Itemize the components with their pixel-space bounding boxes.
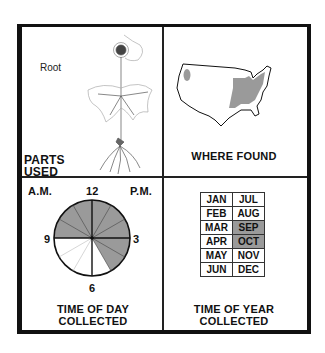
plant-illustration [78,30,162,176]
month-cell: MAR [201,221,233,235]
time-of-day-title: TIME OF DAY COLLECTED [24,303,162,327]
vertical-divider [162,27,164,330]
calendar-row: JAN JUL [201,193,265,207]
hour-9-label: 9 [44,233,50,245]
month-cell: NOV [233,249,265,263]
month-cell: JUN [201,263,233,277]
hour-3-label: 3 [133,233,139,245]
pm-label: P.M. [130,185,152,197]
month-cell: AUG [233,207,265,221]
usa-map [175,60,295,130]
calendar-row: MAR SEP [201,221,265,235]
time-of-year-title-line1: TIME OF YEAR [164,303,304,315]
time-of-day-title-line2: COLLECTED [24,315,162,327]
calendar-row: FEB AUG [201,207,265,221]
month-cell: JUL [233,193,265,207]
month-cell: DEC [233,263,265,277]
month-cell: MAY [201,249,233,263]
calendar-row: MAY NOV [201,249,265,263]
hour-6-label: 6 [89,282,95,294]
parts-used-title: PARTS USED [24,154,65,178]
time-of-year-title-line2: COLLECTED [164,315,304,327]
clock-dial [52,198,132,278]
month-cell-shaded: SEP [233,221,265,235]
part-label: Root [40,62,61,73]
parts-used-title-line2: USED [24,166,65,178]
calendar-row: JUN DEC [201,263,265,277]
am-label: A.M. [28,185,52,197]
hour-12-label: 12 [86,185,99,197]
month-cell: JAN [201,193,233,207]
calendar-row: APR OCT [201,235,265,249]
time-of-year-title: TIME OF YEAR COLLECTED [164,303,304,327]
month-cell: APR [201,235,233,249]
month-cell-shaded: OCT [233,235,265,249]
month-cell: FEB [201,207,233,221]
month-calendar: JAN JUL FEB AUG MAR SEP APR OCT MAY NOV … [200,192,265,277]
where-found-title: WHERE FOUND [164,150,304,162]
time-of-day-title-line1: TIME OF DAY [24,303,162,315]
